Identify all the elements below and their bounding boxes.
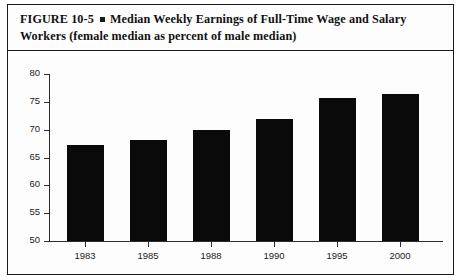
x-tick-1995 xyxy=(337,242,338,247)
figure-title-line-2: Workers (female median as percent of mal… xyxy=(20,28,441,45)
y-tick-label-80: 80 xyxy=(29,67,40,78)
y-tick-label-75: 75 xyxy=(29,95,40,106)
square-bullet-icon xyxy=(100,17,105,22)
x-tick-2000 xyxy=(400,242,401,247)
chart-plot-area: 80 75 70 65 60 55 50 xyxy=(8,51,453,274)
y-tick-65: 65 xyxy=(44,158,49,159)
x-axis-line xyxy=(49,241,443,242)
y-tick-55: 55 xyxy=(44,213,49,214)
bar-1985 xyxy=(130,140,167,241)
bar-1988 xyxy=(193,130,230,241)
y-tick-75: 75 xyxy=(44,102,49,103)
y-tick-label-50: 50 xyxy=(29,234,40,245)
figure-title-text-1: Median Weekly Earnings of Full-Time Wage… xyxy=(110,12,407,26)
figure-number-label: FIGURE 10-5 xyxy=(20,12,94,26)
figure-title-line-1: FIGURE 10-5Median Weekly Earnings of Ful… xyxy=(20,11,441,28)
bar-1990 xyxy=(256,119,293,242)
y-tick-label-60: 60 xyxy=(29,178,40,189)
x-tick-label-1985: 1985 xyxy=(137,250,158,261)
y-tick-60: 60 xyxy=(44,185,49,186)
x-tick-1988 xyxy=(211,242,212,247)
figure-container: FIGURE 10-5Median Weekly Earnings of Ful… xyxy=(7,4,454,275)
y-tick-label-70: 70 xyxy=(29,123,40,134)
bar-1995 xyxy=(319,98,356,241)
x-tick-label-1990: 1990 xyxy=(263,250,284,261)
y-tick-label-65: 65 xyxy=(29,151,40,162)
y-tick-label-55: 55 xyxy=(29,206,40,217)
x-tick-label-1983: 1983 xyxy=(74,250,95,261)
x-tick-label-1988: 1988 xyxy=(200,250,221,261)
x-tick-label-2000: 2000 xyxy=(389,250,410,261)
x-tick-1985 xyxy=(148,242,149,247)
bars-layer xyxy=(50,74,443,241)
y-tick-80: 80 xyxy=(44,74,49,75)
figure-title-block: FIGURE 10-5Median Weekly Earnings of Ful… xyxy=(8,5,453,51)
chart-axes: 80 75 70 65 60 55 50 xyxy=(49,74,443,249)
x-tick-label-1995: 1995 xyxy=(326,250,347,261)
y-tick-50: 50 xyxy=(44,241,49,242)
bar-2000 xyxy=(382,94,419,242)
bar-1983 xyxy=(67,145,104,241)
y-tick-70: 70 xyxy=(44,130,49,131)
x-tick-1983 xyxy=(85,242,86,247)
x-tick-1990 xyxy=(274,242,275,247)
